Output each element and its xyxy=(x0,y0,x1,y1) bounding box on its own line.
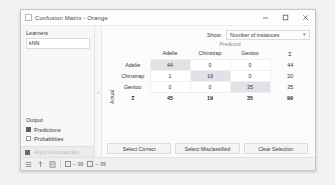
input-count-indicator: ↑ – 99 xyxy=(65,161,83,167)
row-header-sigma: Σ xyxy=(116,92,150,103)
cell-chinstrap-chinstrap[interactable]: 19 xyxy=(190,70,230,81)
apply-icon xyxy=(25,150,30,155)
select-correct-button[interactable]: Select Correct xyxy=(107,143,171,154)
output-count: 99 xyxy=(100,161,106,167)
cell-gentoo-gentoo[interactable]: 35 xyxy=(230,81,270,92)
learners-group-title: Learners xyxy=(26,30,90,36)
cell-chinstrap-adelie[interactable]: 1 xyxy=(150,70,190,81)
upload-icon[interactable] xyxy=(36,160,44,168)
control-panel: Learners kNN Output Predictions Probabil… xyxy=(21,26,95,157)
column-header-adelie: Adelie xyxy=(150,48,190,59)
table-row-totals: Σ 45 19 35 99 xyxy=(116,92,310,103)
status-dash: – xyxy=(73,161,76,167)
table-corner xyxy=(116,48,150,59)
window-controls xyxy=(255,10,315,25)
screen: Confusion Matrix - Orange Learners xyxy=(0,0,335,185)
confusion-matrix-window: Confusion Matrix - Orange Learners xyxy=(20,9,316,171)
learners-list[interactable]: kNN xyxy=(26,38,90,49)
checkbox-icon[interactable] xyxy=(26,127,31,132)
output-count-indicator: ↓ – 99 xyxy=(87,161,105,167)
row-header-adelie: Adelie xyxy=(116,59,150,70)
report-icon[interactable] xyxy=(48,160,56,168)
actual-axis-label: Actual xyxy=(109,90,115,104)
row-header-chinstrap: Chinstrap xyxy=(116,70,150,81)
row-total-chinstrap: 20 xyxy=(270,70,310,81)
checkbox-predictions[interactable]: Predictions xyxy=(26,125,90,134)
cell-adelie-chinstrap[interactable]: 0 xyxy=(190,59,230,70)
cell-gentoo-chinstrap[interactable]: 0 xyxy=(190,81,230,92)
table-row[interactable]: Adelie 44 0 0 44 xyxy=(116,59,310,70)
chevron-down-icon[interactable]: ▾ xyxy=(303,32,308,37)
cell-gentoo-adelie[interactable]: 0 xyxy=(150,81,190,92)
checkbox-probabilities[interactable]: Probabilities xyxy=(26,134,90,143)
column-header-chinstrap: Chinstrap xyxy=(190,48,230,59)
output-icon: ↓ xyxy=(87,161,93,167)
row-total-adelie: 44 xyxy=(270,59,310,70)
status-separator xyxy=(60,160,61,168)
actual-axis-label-wrap: Actual xyxy=(107,40,116,142)
cell-chinstrap-gentoo[interactable]: 0 xyxy=(230,70,270,81)
checkbox-icon[interactable] xyxy=(26,136,31,141)
column-header-gentoo: Gentoo xyxy=(230,48,270,59)
maximize-icon[interactable] xyxy=(275,10,295,26)
window-title: Confusion Matrix - Orange xyxy=(35,15,108,21)
input-count: 99 xyxy=(78,161,84,167)
row-header-gentoo: Gentoo xyxy=(116,81,150,92)
matrix-wrapper: Actual Predicted Adelie Chinstrap Gentoo xyxy=(105,40,310,142)
output-group-title: Output xyxy=(26,117,90,123)
control-spacer xyxy=(26,49,90,117)
table-row[interactable]: Gentoo 0 0 35 35 xyxy=(116,81,310,92)
panel-splitter[interactable]: › xyxy=(95,26,102,157)
show-bar: Show: Number of instances ▾ xyxy=(105,29,310,40)
list-item[interactable]: kNN xyxy=(29,40,87,46)
chevron-right-icon[interactable]: › xyxy=(97,89,99,95)
checkbox-label: Probabilities xyxy=(34,136,63,142)
predicted-axis-label: Predicted xyxy=(116,40,310,48)
close-icon[interactable] xyxy=(295,10,315,26)
show-label: Show: xyxy=(207,32,222,38)
row-total-gentoo: 35 xyxy=(270,81,310,92)
output-group: Output Predictions Probabilities xyxy=(26,117,90,143)
confusion-matrix-table[interactable]: Adelie Chinstrap Gentoo Σ Adelie 44 xyxy=(116,48,310,103)
app-icon xyxy=(25,14,32,21)
cell-adelie-gentoo[interactable]: 0 xyxy=(230,59,270,70)
select-misclassified-button[interactable]: Select Misclassified xyxy=(175,143,239,154)
apply-label: Apply Automatically xyxy=(34,149,79,155)
clear-selection-button[interactable]: Clear Selection xyxy=(244,143,308,154)
minimize-icon[interactable] xyxy=(255,10,275,26)
show-dropdown-value: Number of instances xyxy=(230,32,303,38)
cell-adelie-adelie[interactable]: 44 xyxy=(150,59,190,70)
status-dash: – xyxy=(95,161,98,167)
column-header-sigma: Σ xyxy=(270,48,310,59)
apply-automatically-button[interactable]: Apply Automatically xyxy=(21,146,94,157)
table-header-row: Adelie Chinstrap Gentoo Σ xyxy=(116,48,310,59)
table-row[interactable]: Chinstrap 1 19 0 20 xyxy=(116,70,310,81)
col-total-gentoo: 35 xyxy=(230,92,270,103)
checkbox-label: Predictions xyxy=(34,127,61,133)
title-bar[interactable]: Confusion Matrix - Orange xyxy=(21,10,315,26)
grand-total: 99 xyxy=(270,92,310,103)
window-body: Learners kNN Output Predictions Probabil… xyxy=(21,26,315,157)
show-dropdown[interactable]: Number of instances ▾ xyxy=(226,30,310,40)
status-bar: ↑ – 99 ↓ – 99 xyxy=(21,157,315,170)
col-total-adelie: 45 xyxy=(150,92,190,103)
menu-icon[interactable] xyxy=(24,160,32,168)
action-button-bar: Select Correct Select Misclassified Clea… xyxy=(105,142,310,157)
col-total-chinstrap: 19 xyxy=(190,92,230,103)
matrix-column: Predicted Adelie Chinstrap Gentoo Σ xyxy=(116,40,310,142)
input-icon: ↑ xyxy=(65,161,71,167)
main-panel: Show: Number of instances ▾ Actual Predi… xyxy=(102,26,315,157)
